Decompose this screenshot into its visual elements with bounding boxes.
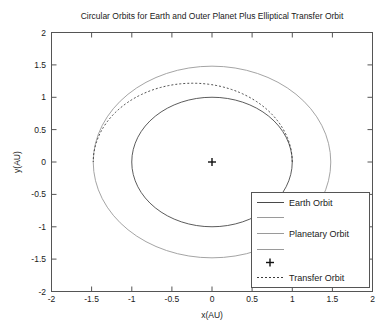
y-tick-label: 0.5: [34, 125, 46, 135]
x-tick-label: -1.5: [84, 294, 99, 304]
x-tick-label: 0: [210, 294, 215, 304]
x-tick-label: -2: [48, 294, 56, 304]
legend-label: Planetary Orbit: [289, 229, 350, 239]
legend-label: Transfer Orbit: [289, 273, 345, 283]
legend-label: Earth Orbit: [289, 198, 333, 208]
sun-plus-marker-icon: [208, 158, 216, 166]
y-tick-label: -2: [38, 287, 46, 297]
y-tick-label: 1.5: [34, 60, 46, 70]
orbit-plot-figure: Circular Orbits for Earth and Outer Plan…: [0, 0, 390, 334]
y-tick-label: 2: [41, 28, 46, 38]
x-tick-label: 1.5: [326, 294, 338, 304]
x-axis-label: x(AU): [201, 310, 223, 320]
chart-title: Circular Orbits for Earth and Outer Plan…: [81, 11, 344, 21]
y-tick-label: -1: [38, 222, 46, 232]
y-tick-label: -1.5: [31, 254, 46, 264]
y-tick-label: 1: [41, 92, 46, 102]
y-tick-label: 0: [41, 157, 46, 167]
y-tick-label: -0.5: [31, 189, 46, 199]
x-tick-label: 2: [370, 294, 375, 304]
orbit-path-transfer-orbit: [93, 83, 292, 162]
y-axis-label: y(AU): [12, 151, 22, 173]
x-tick-label: 0.5: [246, 294, 258, 304]
legend[interactable]: Earth Orbit Planetary Orbit Transfer Orb…: [252, 193, 370, 288]
x-tick-label: -1: [128, 294, 136, 304]
x-tick-label: 1: [290, 294, 295, 304]
x-tick-label: -0.5: [165, 294, 180, 304]
